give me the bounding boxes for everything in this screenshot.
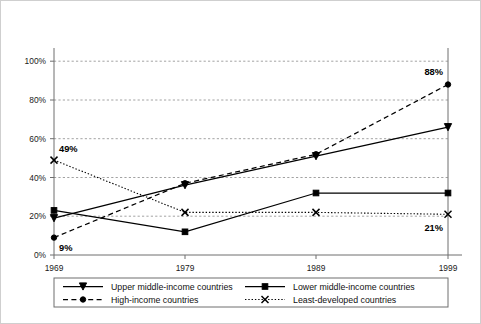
legend-entry-lower-middle-income[interactable]: Lower middle-income countries — [245, 282, 415, 292]
data-annotations: 49% 9% 88% 21% — [59, 67, 444, 253]
marker-least-developed-1979 — [182, 209, 189, 216]
x-axis-tick-labels: 1969 1979 1989 1999 — [45, 263, 458, 273]
legend-label-upper-middle-income: Upper middle-income countries — [111, 282, 233, 292]
annotation-21-percent: 21% — [424, 223, 443, 233]
marker-high-income-1969 — [51, 235, 56, 240]
series-lower-middle-income-countries — [51, 190, 451, 234]
marker-lower-middle-1969 — [51, 208, 57, 214]
annotation-9-percent: 9% — [59, 243, 73, 253]
legend: Upper middle-income countries Lower midd… — [54, 278, 448, 307]
series-line-lower-middle-income — [54, 193, 448, 232]
y-axis-tick-labels: 100% 80% 60% 40% 20% 0% — [25, 56, 47, 260]
legend-entry-high-income[interactable]: High-income countries — [63, 295, 199, 305]
legend-label-high-income: High-income countries — [111, 295, 199, 305]
legend-marker-square-icon — [262, 284, 268, 290]
annotation-49-percent: 49% — [59, 144, 78, 154]
series-least-developed-countries — [51, 157, 452, 218]
marker-lower-middle-1989 — [313, 190, 319, 196]
legend-label-least-developed: Least-developed countries — [293, 295, 397, 305]
legend-entry-least-developed[interactable]: Least-developed countries — [245, 295, 397, 305]
marker-lower-middle-1999 — [445, 190, 451, 196]
x-tick-label-1989: 1989 — [307, 263, 326, 273]
x-tick-label-1999: 1999 — [439, 263, 458, 273]
marker-lower-middle-1979 — [182, 229, 188, 235]
annotation-88-percent: 88% — [424, 67, 443, 77]
series-line-least-developed — [54, 160, 448, 214]
line-chart: 100% 80% 60% 40% 20% 0% 1969 1979 1989 1… — [1, 1, 481, 324]
series-line-upper-middle-income — [54, 127, 448, 218]
legend-marker-circle-icon — [80, 297, 85, 302]
y-tick-label-40: 40% — [29, 173, 46, 183]
series-line-high-income — [54, 85, 448, 238]
x-tick-label-1979: 1979 — [176, 263, 195, 273]
legend-entry-upper-middle-income[interactable]: Upper middle-income countries — [63, 282, 233, 292]
y-tick-label-0: 0% — [34, 250, 47, 260]
axes — [50, 48, 462, 259]
y-tick-label-100: 100% — [25, 56, 47, 66]
legend-label-lower-middle-income: Lower middle-income countries — [293, 282, 415, 292]
x-tick-label-1969: 1969 — [45, 263, 64, 273]
y-tick-label-80: 80% — [29, 95, 46, 105]
marker-high-income-1999 — [445, 82, 450, 87]
chart-figure: 100% 80% 60% 40% 20% 0% 1969 1979 1989 1… — [0, 0, 481, 324]
y-tick-label-20: 20% — [29, 211, 46, 221]
series-upper-middle-income-countries — [50, 124, 451, 222]
y-tick-label-60: 60% — [29, 134, 46, 144]
